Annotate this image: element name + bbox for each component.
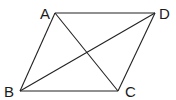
side-dc [118, 13, 155, 91]
vertex-label-a: A [40, 5, 50, 22]
vertex-label-d: D [159, 5, 170, 22]
vertex-label-c: C [125, 83, 136, 100]
vertex-label-b: B [4, 83, 14, 100]
diagonal-bd [20, 13, 155, 91]
side-ba [20, 13, 55, 91]
parallelogram-diagram: A D B C [0, 0, 176, 100]
